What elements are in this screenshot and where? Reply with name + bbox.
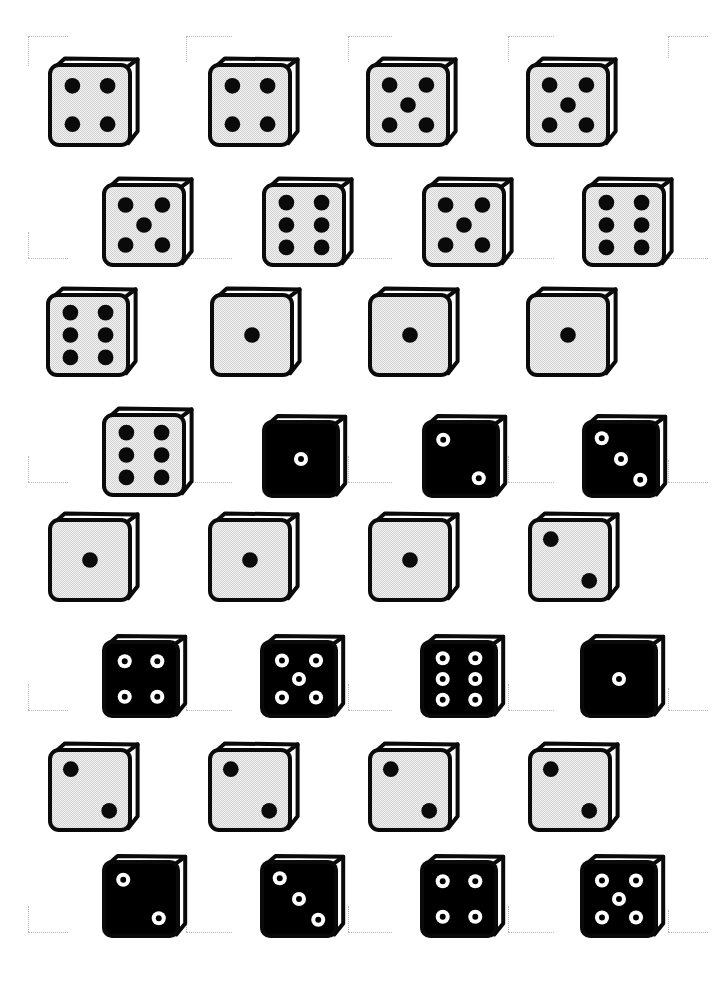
die-dark-5 xyxy=(578,848,672,940)
die-pip xyxy=(63,305,79,321)
die-pip-ring-center xyxy=(296,896,302,902)
die-pip-ring-center xyxy=(440,676,446,682)
crop-mark-vertical-rule xyxy=(28,232,29,258)
die-pip xyxy=(154,470,170,486)
crop-mark-horizontal-rule xyxy=(28,710,68,711)
die-graphic xyxy=(364,50,465,149)
die-pip xyxy=(543,761,559,777)
crop-mark-vertical-rule xyxy=(348,36,349,62)
die-pip-ring-center xyxy=(122,694,128,700)
crop-mark-horizontal-rule xyxy=(348,482,392,483)
crop-mark-horizontal-rule xyxy=(348,710,392,711)
die-pip xyxy=(560,97,576,113)
crop-mark-horizontal-rule xyxy=(668,482,708,483)
crop-mark-horizontal-rule xyxy=(28,482,68,483)
die-pip xyxy=(242,552,258,568)
die-pip-group xyxy=(560,327,576,343)
die-pip xyxy=(261,803,277,819)
die-pip-ring-center xyxy=(616,676,622,682)
die-pip xyxy=(119,447,135,463)
die-dark-4 xyxy=(418,848,512,940)
die-graphic xyxy=(578,848,672,940)
die-pip xyxy=(155,197,171,213)
die-front-face xyxy=(370,750,450,830)
die-graphic xyxy=(578,628,672,720)
die-pip xyxy=(402,327,418,343)
die-dark-1 xyxy=(578,628,672,720)
die-pip xyxy=(225,116,241,132)
die-light-6 xyxy=(260,170,361,269)
die-pip xyxy=(543,531,559,547)
die-pip xyxy=(634,217,650,233)
die-pip xyxy=(456,217,472,233)
die-pip xyxy=(400,97,416,113)
die-pip xyxy=(119,470,135,486)
die-pip xyxy=(579,117,595,133)
die-graphic xyxy=(366,735,467,834)
die-pip-ring-center xyxy=(472,697,478,703)
crop-mark-horizontal-rule xyxy=(508,36,554,37)
die-pip xyxy=(402,552,418,568)
crop-mark-vertical-rule xyxy=(28,36,29,66)
die-front-face xyxy=(264,185,344,265)
crop-mark-horizontal-rule xyxy=(668,932,708,933)
die-pip-ring-center xyxy=(122,658,128,664)
die-front-face xyxy=(422,862,496,936)
die-pip-ring-center xyxy=(313,658,319,664)
die-pip xyxy=(260,78,276,94)
die-light-6 xyxy=(580,170,681,269)
die-pip-ring-center xyxy=(472,655,478,661)
die-pip-ring-center xyxy=(440,437,446,443)
die-pip xyxy=(155,237,171,253)
die-pip xyxy=(63,761,79,777)
die-graphic xyxy=(420,170,521,269)
die-pip-ring-center xyxy=(440,655,446,661)
die-graphic xyxy=(46,50,147,149)
die-front-face xyxy=(50,65,130,145)
die-pip xyxy=(419,77,435,93)
crop-mark-horizontal-rule xyxy=(28,258,68,259)
die-pip xyxy=(475,197,491,213)
die-pip xyxy=(314,240,330,256)
die-pip xyxy=(279,195,295,211)
die-pip-ring-center xyxy=(637,477,643,483)
die-pip xyxy=(599,217,615,233)
die-graphic xyxy=(100,628,194,720)
die-dark-6 xyxy=(418,628,512,720)
die-pip-ring-center xyxy=(313,695,319,701)
die-dark-5 xyxy=(258,628,352,720)
die-pip xyxy=(223,761,239,777)
die-light-1 xyxy=(46,505,147,604)
crop-mark-horizontal-rule xyxy=(348,36,392,37)
die-graphic xyxy=(366,505,467,604)
die-front-face xyxy=(48,295,128,375)
die-dark-2 xyxy=(420,408,514,500)
die-pip xyxy=(383,761,399,777)
die-pip xyxy=(599,240,615,256)
die-pip-ring-center xyxy=(277,875,283,881)
die-dark-4 xyxy=(100,628,194,720)
die-pip-group xyxy=(242,552,258,568)
die-pip-ring-center xyxy=(120,877,126,883)
die-pip xyxy=(421,803,437,819)
die-pip xyxy=(101,803,117,819)
die-pip xyxy=(98,350,114,366)
die-pip-group xyxy=(402,327,418,343)
die-dark-3 xyxy=(580,408,674,500)
die-pip xyxy=(542,117,558,133)
die-graphic xyxy=(420,408,514,500)
die-pip-ring-center xyxy=(599,435,605,441)
die-pip xyxy=(82,552,98,568)
die-light-2 xyxy=(206,735,307,834)
die-pip xyxy=(63,350,79,366)
die-pip xyxy=(154,447,170,463)
die-graphic xyxy=(260,170,361,269)
die-light-5 xyxy=(364,50,465,149)
die-pip xyxy=(98,327,114,343)
crop-mark-horizontal-rule xyxy=(28,36,68,37)
die-graphic xyxy=(100,170,201,269)
die-graphic xyxy=(526,735,627,834)
die-pip-ring-center xyxy=(279,695,285,701)
die-pip xyxy=(100,78,116,94)
die-pip-ring-center xyxy=(599,915,605,921)
